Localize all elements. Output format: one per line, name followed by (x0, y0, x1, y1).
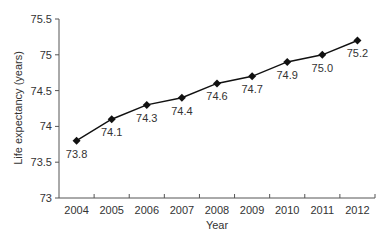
data-label: 75.0 (312, 62, 333, 74)
diamond-marker-icon (283, 58, 291, 66)
y-axis: 7373.57474.57575.5 (31, 13, 59, 204)
y-tick-label: 74 (40, 120, 52, 132)
x-tick-label: 2004 (64, 204, 88, 216)
diamond-marker-icon (213, 79, 221, 87)
x-tick-label: 2008 (205, 204, 229, 216)
x-tick-label: 2006 (135, 204, 159, 216)
x-tick-label: 2012 (345, 204, 369, 216)
data-label: 74.4 (171, 105, 192, 117)
x-tick-label: 2005 (99, 204, 123, 216)
y-axis-title: Life expectancy (years) (12, 51, 24, 165)
data-series: 73.874.174.374.474.674.774.975.075.2 (66, 36, 368, 159)
x-tick-label: 2011 (311, 204, 335, 216)
data-label: 74.9 (277, 69, 298, 81)
life-expectancy-chart: 7373.57474.57575.5 200420052006200720082… (0, 0, 388, 240)
y-tick-label: 75 (40, 49, 52, 61)
y-tick-label: 73 (40, 192, 52, 204)
diamond-marker-icon (353, 36, 361, 44)
data-label: 73.8 (66, 148, 87, 160)
diamond-marker-icon (248, 72, 256, 80)
diamond-marker-icon (73, 137, 81, 145)
x-tick-label: 2010 (275, 204, 299, 216)
diamond-marker-icon (318, 51, 326, 59)
y-tick-label: 73.5 (31, 156, 52, 168)
data-label: 74.7 (241, 83, 262, 95)
diamond-marker-icon (178, 94, 186, 102)
x-axis: 200420052006200720082009201020112012 (59, 194, 375, 216)
diamond-marker-icon (108, 115, 116, 123)
data-label: 75.2 (347, 47, 368, 59)
data-label: 74.6 (206, 90, 227, 102)
data-label: 74.1 (101, 126, 122, 138)
y-tick-label: 74.5 (31, 85, 52, 97)
x-axis-title: Year (206, 219, 229, 231)
diamond-marker-icon (143, 101, 151, 109)
y-tick-label: 75.5 (31, 13, 52, 25)
x-tick-label: 2007 (170, 204, 194, 216)
x-tick-label: 2009 (240, 204, 264, 216)
data-label: 74.3 (136, 112, 157, 124)
